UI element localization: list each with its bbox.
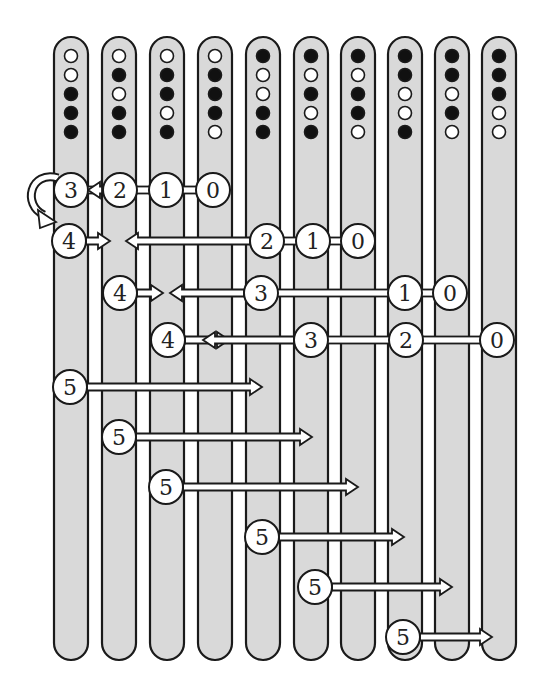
- white-dot: [446, 88, 459, 101]
- white-dot: [305, 69, 318, 82]
- node-0: 0: [341, 224, 375, 258]
- node-3: 3: [294, 323, 328, 357]
- sorting-network-diagram: 3210421043104320555555: [0, 0, 547, 683]
- black-dot: [446, 69, 459, 82]
- white-dot: [352, 69, 365, 82]
- node-5: 5: [386, 620, 420, 654]
- black-dot: [352, 88, 365, 101]
- white-dot: [161, 107, 174, 120]
- white-dot: [161, 50, 174, 63]
- node-label: 5: [63, 375, 77, 400]
- node-2: 2: [250, 224, 284, 258]
- node-5: 5: [53, 370, 87, 404]
- white-dot: [65, 69, 78, 82]
- node-2: 2: [103, 173, 137, 207]
- node-4: 4: [52, 224, 86, 258]
- node-2: 2: [389, 323, 423, 357]
- node-label: 5: [308, 575, 322, 600]
- node-5: 5: [102, 420, 136, 454]
- node-label: 5: [255, 525, 269, 550]
- black-dot: [65, 107, 78, 120]
- node-label: 3: [304, 328, 318, 353]
- white-dot: [257, 69, 270, 82]
- white-dot: [446, 126, 459, 139]
- black-dot: [161, 69, 174, 82]
- black-dot: [399, 50, 412, 63]
- node-label: 2: [113, 178, 127, 203]
- black-dot: [399, 126, 412, 139]
- white-dot: [493, 107, 506, 120]
- black-dot: [446, 107, 459, 120]
- node-label: 3: [64, 178, 78, 203]
- node-label: 1: [306, 229, 320, 254]
- white-dot: [399, 88, 412, 101]
- node-3: 3: [244, 276, 278, 310]
- black-dot: [305, 88, 318, 101]
- black-dot: [113, 69, 126, 82]
- diagram-canvas: 3210421043104320555555: [0, 0, 547, 683]
- node-label: 0: [206, 178, 220, 203]
- node-0: 0: [480, 323, 514, 357]
- column-2: [102, 37, 136, 660]
- white-dot: [209, 126, 222, 139]
- columns-layer: [54, 37, 516, 660]
- black-dot: [257, 126, 270, 139]
- column-7: [341, 37, 375, 660]
- node-label: 2: [260, 229, 274, 254]
- node-label: 3: [254, 281, 268, 306]
- node-label: 4: [113, 281, 127, 306]
- node-0: 0: [196, 173, 230, 207]
- connector-line: [261, 290, 405, 297]
- black-dot: [493, 69, 506, 82]
- white-dot: [113, 50, 126, 63]
- node-1: 1: [149, 173, 183, 207]
- black-dot: [161, 88, 174, 101]
- black-dot: [257, 107, 270, 120]
- node-label: 0: [351, 229, 365, 254]
- node-label: 5: [112, 425, 126, 450]
- node-1: 1: [296, 224, 330, 258]
- node-1: 1: [388, 276, 422, 310]
- black-dot: [446, 50, 459, 63]
- node-4: 4: [151, 323, 185, 357]
- black-dot: [113, 107, 126, 120]
- white-dot: [399, 107, 412, 120]
- column-5: [246, 37, 280, 660]
- black-dot: [352, 107, 365, 120]
- white-dot: [352, 126, 365, 139]
- black-dot: [209, 69, 222, 82]
- node-4: 4: [103, 276, 137, 310]
- white-dot: [209, 50, 222, 63]
- node-3: 3: [54, 173, 88, 207]
- black-dot: [305, 126, 318, 139]
- column-9: [435, 37, 469, 660]
- white-dot: [65, 50, 78, 63]
- white-dot: [493, 126, 506, 139]
- black-dot: [352, 50, 365, 63]
- node-label: 0: [443, 281, 457, 306]
- white-dot: [113, 88, 126, 101]
- node-5: 5: [245, 520, 279, 554]
- black-dot: [209, 107, 222, 120]
- black-dot: [493, 88, 506, 101]
- node-label: 4: [161, 328, 175, 353]
- node-label: 1: [398, 281, 412, 306]
- node-0: 0: [433, 276, 467, 310]
- node-5: 5: [298, 570, 332, 604]
- column-1: [54, 37, 88, 660]
- black-dot: [65, 88, 78, 101]
- node-label: 0: [490, 328, 504, 353]
- node-5: 5: [149, 470, 183, 504]
- node-label: 1: [159, 178, 173, 203]
- black-dot: [257, 50, 270, 63]
- black-dot: [209, 88, 222, 101]
- node-label: 2: [399, 328, 413, 353]
- black-dot: [161, 126, 174, 139]
- black-dot: [305, 50, 318, 63]
- node-label: 4: [62, 229, 76, 254]
- black-dot: [113, 126, 126, 139]
- node-label: 5: [159, 475, 173, 500]
- left-arrow: [88, 182, 102, 198]
- black-dot: [65, 126, 78, 139]
- black-dot: [493, 50, 506, 63]
